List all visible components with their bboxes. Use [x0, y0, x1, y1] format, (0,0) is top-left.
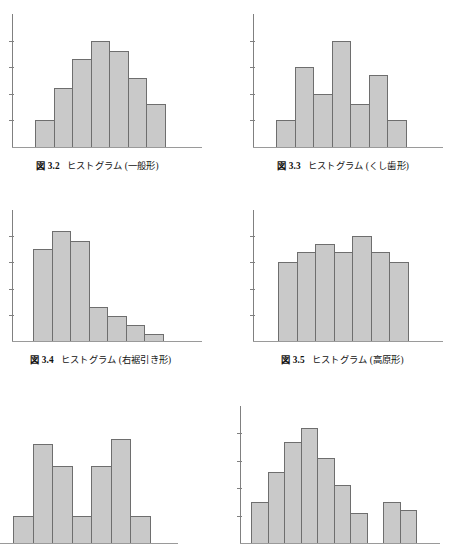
histogram-general-shape [12, 14, 202, 148]
histogram-bar [33, 249, 53, 341]
y-axis-tick [237, 516, 242, 517]
histogram-bar [400, 510, 418, 543]
histogram-bar [91, 466, 112, 543]
histogram-bar [295, 67, 315, 147]
figure-3-2: 図 3.2ヒストグラム (一般形) [12, 14, 202, 148]
histogram-bar [146, 104, 166, 147]
histogram-bar [334, 252, 354, 341]
histogram-bar [315, 244, 335, 341]
figure-3-3-caption: 図 3.3ヒストグラム (くし歯形) [277, 158, 409, 172]
y-axis [12, 14, 13, 148]
y-axis-tick [9, 289, 14, 290]
y-axis-tick [250, 315, 255, 316]
figure-3-4-title: ヒストグラム (右裾引き形) [61, 355, 171, 365]
y-axis-tick [250, 94, 255, 95]
histogram-bar [54, 88, 74, 147]
histogram-bar [276, 120, 296, 147]
figure-3-4-caption: 図 3.4ヒストグラム (右裾引き形) [30, 352, 171, 366]
y-axis-tick [9, 94, 14, 95]
histogram-bar [91, 41, 111, 147]
histogram-bar [128, 78, 148, 147]
figure-3-3: 図 3.3ヒストグラム (くし歯形) [253, 14, 443, 148]
y-axis-tick [250, 41, 255, 42]
histogram-bar [350, 513, 368, 543]
figure-3-2-title: ヒストグラム (一般形) [67, 161, 159, 171]
y-axis-tick [9, 67, 14, 68]
histogram-bar [251, 502, 269, 543]
histogram-bar [126, 325, 146, 341]
histogram-bar [389, 262, 409, 341]
histogram-plateau-shape [253, 210, 443, 342]
bar-group [252, 428, 417, 543]
histogram-bar [297, 252, 317, 341]
histogram-bar [130, 516, 151, 543]
histogram-comb-shape [253, 14, 443, 148]
figure-3-6 [0, 406, 178, 544]
y-axis-tick [250, 262, 255, 263]
histogram-bar [332, 41, 352, 147]
figure-3-3-number: 図 3.3 [277, 161, 301, 171]
figure-3-7 [240, 406, 440, 544]
histogram-bar [111, 439, 132, 543]
histogram-bar [70, 241, 90, 341]
histogram-bar [52, 231, 72, 341]
histogram-bar [72, 516, 93, 543]
x-axis [12, 341, 202, 342]
bar-group [14, 439, 151, 543]
y-axis-tick [9, 236, 14, 237]
y-axis [253, 14, 254, 148]
histogram-bar [284, 442, 302, 543]
figure-3-2-caption: 図 3.2ヒストグラム (一般形) [36, 158, 159, 172]
histogram-bar [387, 120, 407, 147]
histogram-bar [13, 516, 34, 543]
y-axis-tick [250, 120, 255, 121]
histogram-bar [109, 51, 129, 147]
histogram-bar [278, 262, 298, 341]
x-axis [12, 147, 202, 148]
histogram-bar [89, 307, 109, 341]
histogram-bar [72, 59, 92, 147]
histogram-bar [33, 444, 54, 543]
y-axis [240, 406, 241, 544]
y-axis-tick [250, 236, 255, 237]
histogram-bar [369, 75, 389, 147]
y-axis-tick [250, 289, 255, 290]
histogram-bar [35, 120, 55, 147]
histogram-bar [301, 428, 319, 543]
figure-3-3-title: ヒストグラム (くし歯形) [308, 161, 409, 171]
histogram-bar [383, 502, 401, 543]
bar-group [279, 236, 409, 341]
histogram-bar [144, 334, 164, 341]
histogram-twin-peak-shape [0, 406, 178, 544]
y-axis [253, 210, 254, 342]
x-axis [0, 543, 178, 544]
figure-3-5-title: ヒストグラム (高原形) [312, 355, 404, 365]
y-axis-tick [250, 67, 255, 68]
y-axis-tick [9, 262, 14, 263]
histogram-bar [107, 316, 127, 341]
y-axis-tick [9, 41, 14, 42]
figure-3-5-caption: 図 3.5ヒストグラム (高原形) [281, 352, 404, 366]
figure-3-4: 図 3.4ヒストグラム (右裾引き形) [12, 210, 202, 342]
histogram-bar [268, 472, 286, 543]
x-axis [253, 341, 443, 342]
y-axis-tick [9, 315, 14, 316]
histogram-bar [371, 252, 391, 341]
histogram-bar [350, 104, 370, 147]
bar-group [34, 231, 164, 341]
histogram-bar [52, 466, 73, 543]
figure-3-5-number: 図 3.5 [281, 355, 305, 365]
figure-3-5: 図 3.5ヒストグラム (高原形) [253, 210, 443, 342]
y-axis-tick [237, 488, 242, 489]
figure-3-4-number: 図 3.4 [30, 355, 54, 365]
histogram-right-skewed-shape [12, 210, 202, 342]
x-axis [253, 147, 443, 148]
histogram-isolated-island-shape [240, 406, 440, 544]
bar-group [36, 41, 166, 147]
y-axis-tick [9, 120, 14, 121]
y-axis [12, 210, 13, 342]
figure-3-2-number: 図 3.2 [36, 161, 60, 171]
figure-sheet: 図 3.2ヒストグラム (一般形) 図 3.3ヒストグラム (くし歯形) 図 3… [0, 0, 466, 551]
y-axis-tick [237, 461, 242, 462]
x-axis [240, 543, 440, 544]
